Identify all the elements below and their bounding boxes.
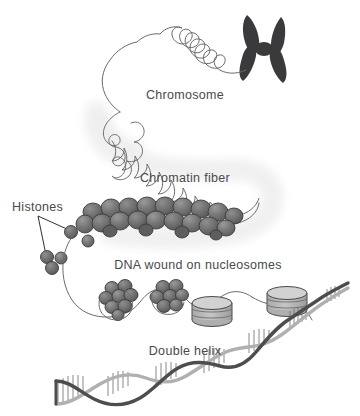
label-chromosome: Chromosome — [146, 88, 224, 102]
diagram-canvas: Chromosome Chromatin fiber Histones DNA … — [0, 0, 360, 416]
disc-stack-left — [192, 297, 232, 327]
dna-packaging-diagram: Chromosome Chromatin fiber Histones DNA … — [0, 0, 360, 416]
label-histones: Histones — [12, 200, 63, 214]
label-dna-wound-on-nucleosomes: DNA wound on nucleosomes — [114, 258, 282, 272]
label-chromatin-fiber: Chromatin fiber — [140, 171, 230, 185]
label-double-helix: Double helix — [149, 344, 222, 358]
